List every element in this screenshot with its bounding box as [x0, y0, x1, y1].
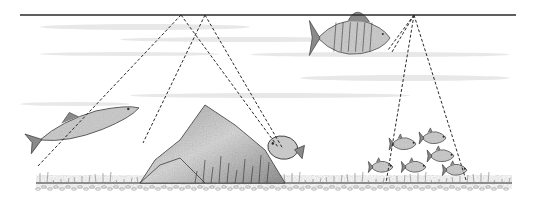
water-streak	[250, 52, 510, 57]
fish-minnow	[427, 146, 454, 162]
rock-hump	[140, 105, 285, 183]
beam-perch	[388, 15, 414, 52]
fish-minnow	[442, 161, 467, 176]
beam-edge	[386, 15, 414, 183]
beam-edge	[388, 15, 414, 50]
beam-edge	[38, 15, 181, 166]
fish-minnow	[401, 158, 426, 173]
illustration-canvas	[0, 0, 542, 214]
water-streak	[40, 52, 220, 56]
fish-minnow	[419, 128, 446, 144]
fishing-sonar-illustration	[0, 0, 542, 214]
water-streak	[300, 75, 510, 81]
water-streak	[20, 102, 130, 106]
water-streaks	[20, 24, 510, 106]
beam-school	[386, 15, 466, 183]
water-streak	[40, 24, 250, 30]
fish-minnow	[389, 134, 416, 150]
fish-pike	[23, 92, 142, 154]
water-streak	[130, 93, 410, 98]
fish-perch	[309, 12, 390, 55]
beam-edge	[392, 15, 414, 52]
